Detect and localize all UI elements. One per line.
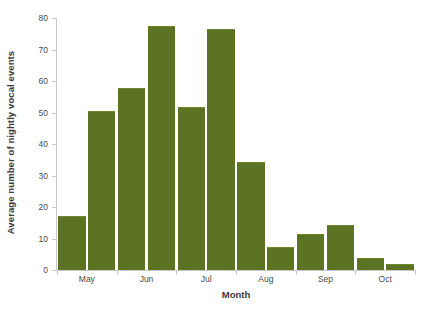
bar [357, 258, 384, 270]
bar [327, 225, 354, 270]
bar [178, 107, 205, 270]
y-axis-tick-mark [52, 50, 56, 51]
y-axis-tick-mark [52, 144, 56, 145]
y-axis-tick-labels: 01020304050607080 [22, 0, 52, 285]
y-axis-title: Average number of nightly vocal events [0, 0, 22, 285]
bar [58, 216, 85, 270]
x-axis-tick-label: Jul [201, 274, 212, 284]
x-axis-tick-label: Jun [140, 274, 154, 284]
bar [386, 264, 413, 270]
y-axis-tick-label: 70 [39, 45, 48, 55]
x-axis-tick-label: Oct [379, 274, 392, 284]
y-axis-tick-mark [52, 81, 56, 82]
y-axis-tick-label: 0 [43, 265, 48, 275]
bar [297, 234, 324, 270]
y-axis-tick-label: 40 [39, 139, 48, 149]
y-axis-tick-label: 80 [39, 13, 48, 23]
y-axis-title-text: Average number of nightly vocal events [6, 51, 17, 234]
bar [148, 26, 175, 270]
y-axis-tick-mark [52, 270, 56, 271]
plot-area [56, 18, 416, 271]
x-axis-title: Month [56, 289, 416, 300]
y-axis-tick-mark [52, 18, 56, 19]
y-axis-tick-label: 20 [39, 202, 48, 212]
bar [118, 88, 145, 270]
x-axis-tick-label: May [79, 274, 95, 284]
bar [267, 247, 294, 270]
y-axis-tick-mark [52, 239, 56, 240]
y-axis-tick-label: 30 [39, 171, 48, 181]
y-axis-tick-mark [52, 207, 56, 208]
x-axis-tick-labels: MayJunJulAugSepOct [56, 274, 416, 288]
y-axis-tick-mark [52, 176, 56, 177]
x-axis-tick-label: Aug [258, 274, 273, 284]
bar [237, 162, 264, 270]
y-axis-tick-label: 60 [39, 76, 48, 86]
bar-series [57, 18, 416, 270]
y-axis-tick-label: 50 [39, 108, 48, 118]
y-axis-tick-label: 10 [39, 234, 48, 244]
bar [207, 29, 234, 270]
bar [88, 111, 115, 270]
x-axis-tick-label: Sep [318, 274, 333, 284]
y-axis-tick-mark [52, 113, 56, 114]
bar-chart-figure: Average number of nightly vocal events 0… [0, 0, 428, 315]
